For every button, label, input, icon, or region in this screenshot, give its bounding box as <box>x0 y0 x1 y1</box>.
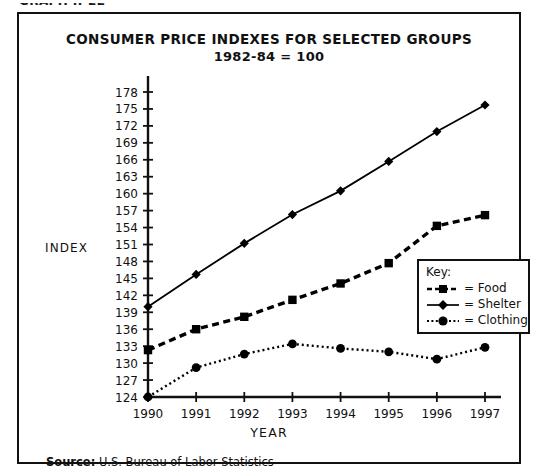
source-text: U.S. Bureau of Labor Statistics <box>99 455 274 469</box>
y-tick-label: 157 <box>115 204 138 218</box>
graph-number-label: GRAPH II-22 <box>19 0 105 8</box>
legend: Key: = Food = Shelter <box>417 259 530 334</box>
y-tick-label: 127 <box>115 374 138 388</box>
y-tick-label: 154 <box>115 221 138 235</box>
data-point-marker <box>288 296 296 304</box>
y-tick-label: 175 <box>115 102 138 116</box>
y-tick-label: 169 <box>115 136 138 150</box>
data-point-marker <box>336 186 345 195</box>
x-axis-title: YEAR <box>19 425 519 440</box>
y-tick-label: 124 <box>115 391 138 405</box>
data-point-marker <box>192 363 201 372</box>
data-point-marker <box>192 325 200 333</box>
source-prefix: Source: <box>46 455 95 469</box>
y-tick-label: 139 <box>115 306 138 320</box>
data-point-marker <box>432 127 441 136</box>
data-point-marker <box>240 313 248 321</box>
y-tick-label: 166 <box>115 153 138 167</box>
data-point-marker <box>336 279 344 287</box>
data-point-marker <box>385 259 393 267</box>
x-axis: 19901991199219931994199519961997 <box>133 392 501 421</box>
y-axis: 1241271301331361391421451481511541571601… <box>115 76 153 405</box>
data-point-marker <box>240 350 249 359</box>
y-tick-label: 142 <box>115 289 138 303</box>
x-tick-label: 1994 <box>325 407 356 421</box>
x-tick-label: 1990 <box>133 407 164 421</box>
data-point-marker <box>481 343 490 352</box>
data-point-marker <box>288 210 297 219</box>
y-tick-label: 136 <box>115 323 138 337</box>
x-tick-label: 1993 <box>277 407 308 421</box>
y-tick-label: 163 <box>115 170 138 184</box>
legend-swatch-food <box>426 281 460 295</box>
x-tick-label: 1996 <box>422 407 453 421</box>
data-point-marker <box>144 393 153 402</box>
legend-item-food: = Food <box>426 280 528 296</box>
data-point-marker <box>480 100 489 109</box>
figure-frame: CONSUMER PRICE INDEXES FOR SELECTED GROU… <box>17 12 521 464</box>
data-point-marker <box>384 157 393 166</box>
legend-item-clothing: = Clothing <box>426 312 528 328</box>
legend-label-clothing: = Clothing <box>464 313 528 327</box>
legend-item-shelter: = Shelter <box>426 296 528 312</box>
legend-swatch-clothing <box>426 313 460 327</box>
data-point-marker <box>433 222 441 230</box>
y-tick-label: 151 <box>115 238 138 252</box>
legend-label-food: = Food <box>464 281 507 295</box>
data-point-marker <box>481 211 489 219</box>
data-series-group <box>143 100 489 401</box>
y-axis-title: INDEX <box>45 241 88 255</box>
legend-swatch-shelter <box>426 297 460 311</box>
data-point-marker <box>336 344 345 353</box>
y-tick-label: 148 <box>115 255 138 269</box>
y-tick-label: 160 <box>115 187 138 201</box>
legend-label-shelter: = Shelter <box>464 297 521 311</box>
source-note: Source: U.S. Bureau of Labor Statistics <box>46 455 274 469</box>
y-tick-label: 178 <box>115 86 138 100</box>
x-tick-label: 1991 <box>181 407 212 421</box>
x-tick-label: 1995 <box>373 407 404 421</box>
data-point-marker <box>240 239 249 248</box>
y-tick-label: 133 <box>115 340 138 354</box>
line-chart-plot: 1241271301331361391421451481511541571601… <box>19 14 519 462</box>
y-tick-label: 172 <box>115 119 138 133</box>
x-tick-label: 1997 <box>470 407 501 421</box>
data-point-marker <box>384 347 393 356</box>
data-point-marker <box>144 346 152 354</box>
x-tick-label: 1992 <box>229 407 260 421</box>
data-point-marker <box>288 340 297 349</box>
y-tick-label: 130 <box>115 357 138 371</box>
data-point-marker <box>432 355 441 364</box>
y-tick-label: 145 <box>115 272 138 286</box>
legend-heading: Key: <box>426 265 528 280</box>
